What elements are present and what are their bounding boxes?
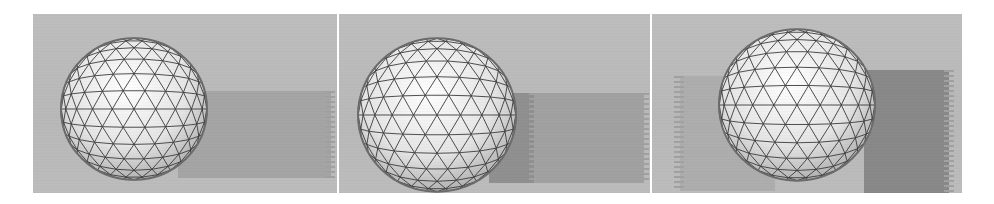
- render-panel-3: [652, 14, 962, 193]
- render-panel-1: [33, 14, 337, 193]
- render-panel-2: [339, 14, 650, 193]
